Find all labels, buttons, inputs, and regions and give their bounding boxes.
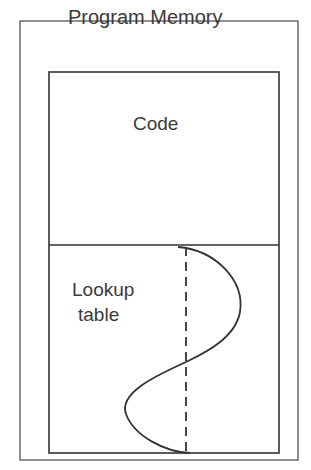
diagram-title: Program Memory xyxy=(68,6,222,29)
program-memory-diagram xyxy=(0,0,311,470)
sine-wave-curve xyxy=(125,247,241,453)
outer-memory-box xyxy=(20,21,298,460)
code-section-label: Code xyxy=(133,113,178,135)
lookup-label-line2: table xyxy=(72,302,134,327)
lookup-label-line1: Lookup xyxy=(72,277,134,302)
lookup-table-label: Lookup table xyxy=(72,277,134,327)
